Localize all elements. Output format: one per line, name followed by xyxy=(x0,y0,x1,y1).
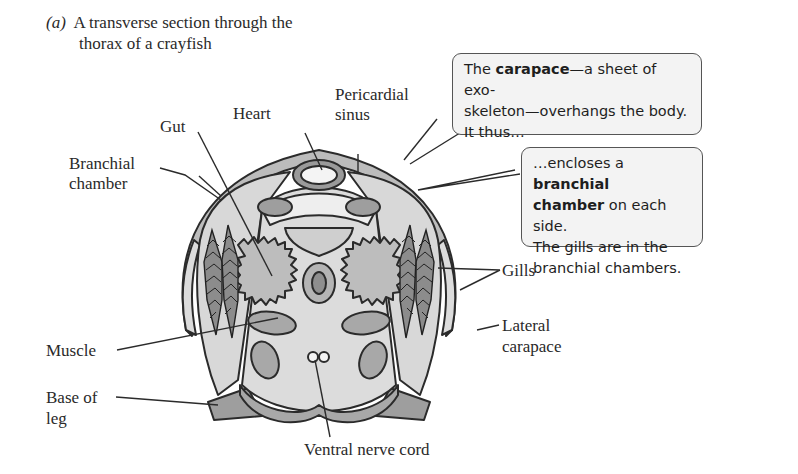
callout-branchial-chamber: …encloses a branchial chamber on each si… xyxy=(521,147,703,247)
label-ventral-nerve-cord: Ventral nerve cord xyxy=(304,440,430,460)
label-muscle: Muscle xyxy=(46,341,96,361)
callout-carapace: The carapace—a sheet of exo- skeleton—ov… xyxy=(452,53,702,135)
term-branchial: branchial xyxy=(533,176,609,192)
label-lateral-carapace-2: carapace xyxy=(502,337,561,357)
label-branchial-chamber-1: Branchial xyxy=(69,154,135,174)
ventral-nerve-cord xyxy=(308,352,318,362)
term-carapace: carapace xyxy=(496,61,570,77)
label-gut: Gut xyxy=(160,117,186,137)
label-heart: Heart xyxy=(233,104,271,124)
label-branchial-chamber-2: chamber xyxy=(69,174,128,194)
label-pericardial-sinus-2: sinus xyxy=(335,105,370,125)
label-base-of-leg-1: Base of xyxy=(46,388,97,408)
label-lateral-carapace-1: Lateral xyxy=(502,316,550,336)
term-chamber: chamber xyxy=(533,197,604,213)
label-pericardial-sinus-1: Pericardial xyxy=(335,85,409,105)
label-gills: Gills xyxy=(502,261,535,281)
label-base-of-leg-2: leg xyxy=(46,409,67,429)
